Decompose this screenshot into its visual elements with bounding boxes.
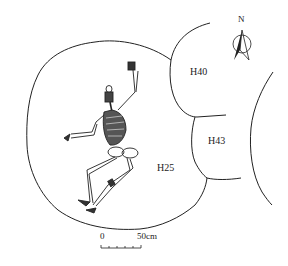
- scale-end-label: 50cm: [137, 232, 157, 241]
- site-plan-drawing: [0, 0, 288, 266]
- pit-h43-outline: [192, 117, 241, 180]
- scale-bar: [101, 245, 141, 248]
- pit-label-h43: H43: [208, 136, 225, 146]
- scale-start-label: 0: [100, 232, 105, 241]
- skeleton-drawing: [64, 62, 138, 213]
- north-label: N: [238, 15, 245, 24]
- pit-adjacent-outline: [250, 72, 273, 205]
- north-arrow-icon: [233, 30, 251, 60]
- pit-label-h25: H25: [157, 163, 174, 173]
- pit-label-h40: H40: [190, 67, 207, 77]
